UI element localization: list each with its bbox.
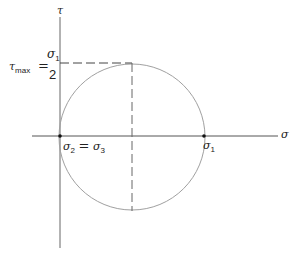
sigma-axis-label: σ bbox=[281, 129, 289, 140]
fraction-denominator: 2 bbox=[49, 68, 56, 81]
sigma2-equals-sigma3-label: σ2 = σ3 bbox=[63, 139, 105, 155]
origin-equals-sign: = bbox=[78, 138, 89, 153]
fraction-numerator: σ1 bbox=[47, 48, 60, 63]
sigma1-numerator-subscript: 1 bbox=[55, 54, 59, 63]
sigma1-point-label: σ1 bbox=[203, 140, 215, 154]
mohr-circle-diagram: τ σ τmax = σ1 2 σ2 = σ3 σ1 bbox=[0, 0, 296, 255]
tau-symbol: τ bbox=[57, 4, 63, 17]
sigma1-subscript: 1 bbox=[211, 145, 215, 154]
tau-max-label: τmax bbox=[9, 61, 30, 75]
sigma1-numerator-symbol: σ bbox=[47, 47, 55, 61]
sigma1-point bbox=[202, 134, 206, 138]
sigma2-subscript: 2 bbox=[71, 146, 75, 155]
tau-max-subscript: max bbox=[15, 66, 30, 75]
origin-point bbox=[58, 134, 62, 138]
sigma1-symbol: σ bbox=[203, 139, 211, 152]
sigma3-subscript: 3 bbox=[100, 146, 104, 155]
tau-axis-label: τ bbox=[57, 5, 63, 16]
sigma-symbol: σ bbox=[281, 128, 289, 141]
diagram-canvas bbox=[0, 0, 296, 255]
denominator-two: 2 bbox=[49, 67, 56, 82]
sigma2-symbol: σ bbox=[63, 140, 71, 153]
